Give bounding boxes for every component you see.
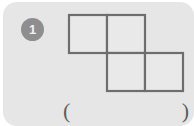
s-tetromino-net-icon <box>67 13 187 93</box>
square-bottom-middle <box>107 53 145 91</box>
worksheet-question-card-root: 1 ( ) <box>0 0 194 126</box>
tetromino-squares <box>69 15 183 91</box>
square-top-middle <box>107 15 145 53</box>
answer-close-paren: ) <box>182 98 189 124</box>
answer-open-paren: ( <box>63 98 70 124</box>
square-top-left <box>69 15 107 53</box>
square-bottom-right <box>145 53 183 91</box>
question-card: 1 ( ) <box>3 2 194 126</box>
answer-blank[interactable] <box>77 98 181 124</box>
question-number-badge: 1 <box>21 18 44 41</box>
answer-field-group[interactable]: ( ) <box>59 98 191 124</box>
figure-container <box>67 13 187 93</box>
